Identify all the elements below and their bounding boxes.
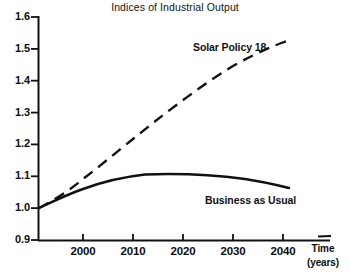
x-tick-label-2030: 2030	[210, 245, 256, 257]
y-tick-label-1-2: 1.2	[2, 137, 30, 149]
y-tick-label-1-0: 1.0	[2, 201, 30, 213]
chart-plot-area	[0, 0, 350, 274]
x-tick-label-2010: 2010	[110, 245, 156, 257]
series-label-solar-policy: Solar Policy 18	[193, 41, 266, 53]
y-tick-label-1-1: 1.1	[2, 169, 30, 181]
y-tick-label-1-5: 1.5	[2, 42, 30, 54]
chart-container: Indices of Industrial Output	[0, 0, 350, 274]
y-tick-label-1-6: 1.6	[2, 10, 30, 22]
y-tick-label-1-3: 1.3	[2, 106, 30, 118]
x-tick-label-2000: 2000	[60, 245, 106, 257]
x-tick-label-2020: 2020	[160, 245, 206, 257]
x-axis-label-units: (years)	[297, 257, 349, 268]
series-line-solar-policy	[39, 40, 290, 208]
y-tick-label-1-4: 1.4	[2, 74, 30, 86]
x-axis-label-time: Time	[297, 243, 349, 254]
series-label-business-as-usual: Business as Usual	[205, 194, 296, 206]
y-tick-label-0-9: 0.9	[2, 233, 30, 245]
series-dash-tail	[318, 236, 331, 237]
